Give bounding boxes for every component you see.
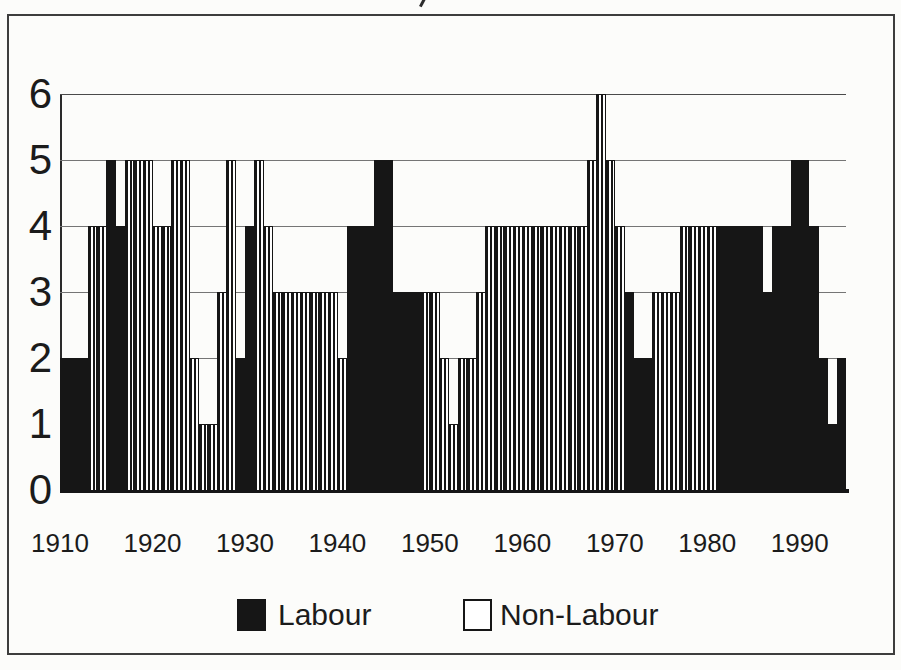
y-tick-label-3: 3	[0, 270, 52, 314]
y-tick-label-2: 2	[0, 336, 52, 380]
x-tick-label-1990: 1990	[771, 528, 829, 559]
x-tick-label-1950: 1950	[401, 528, 459, 559]
bar-1994-labour	[837, 358, 847, 490]
plot-area	[60, 94, 846, 490]
figure: 0123456 19101920193019401950196019701980…	[0, 0, 901, 670]
scan-artifact-mark	[419, 0, 425, 7]
y-tick-label-4: 4	[0, 204, 52, 248]
x-tick-label-1970: 1970	[586, 528, 644, 559]
x-tick-label-1910: 1910	[31, 528, 89, 559]
legend: Labour Non-Labour	[0, 598, 901, 634]
y-tick-label-6: 6	[0, 72, 52, 116]
legend-swatch-labour	[237, 599, 266, 631]
legend-label-nonlabour: Non-Labour	[500, 598, 658, 631]
bars-layer	[60, 94, 846, 490]
x-tick-label-1920: 1920	[124, 528, 182, 559]
x-tick-label-1940: 1940	[308, 528, 366, 559]
y-tick-label-5: 5	[0, 138, 52, 182]
x-tick-label-1960: 1960	[493, 528, 551, 559]
legend-label-labour: Labour	[278, 598, 371, 631]
x-tick-label-1930: 1930	[216, 528, 274, 559]
y-tick-label-1: 1	[0, 402, 52, 446]
y-tick-label-0: 0	[0, 468, 52, 512]
x-tick-label-1980: 1980	[678, 528, 736, 559]
legend-swatch-nonlabour	[463, 599, 492, 631]
